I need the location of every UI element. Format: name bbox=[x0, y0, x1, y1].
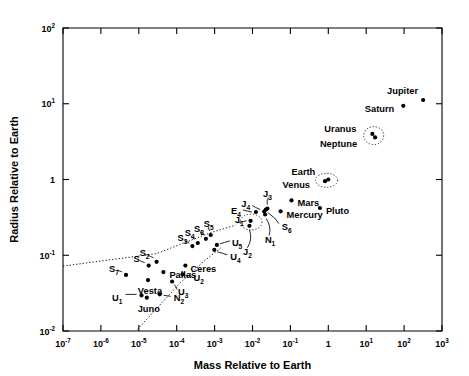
point-marker[interactable] bbox=[249, 219, 253, 223]
x-tick-label: 10-5 bbox=[131, 337, 147, 349]
point-marker[interactable] bbox=[254, 210, 258, 214]
y-tick-label: 10-1 bbox=[39, 249, 55, 261]
point-marker[interactable] bbox=[318, 206, 322, 210]
point-marker[interactable] bbox=[370, 132, 374, 136]
data-point-u5[interactable]: U5 bbox=[215, 238, 243, 250]
boundary-lines bbox=[63, 225, 236, 329]
label-leader-line bbox=[247, 230, 250, 248]
point-marker[interactable] bbox=[124, 273, 128, 277]
point-marker[interactable] bbox=[263, 212, 267, 216]
point-marker[interactable] bbox=[145, 296, 149, 300]
point-marker[interactable] bbox=[373, 135, 377, 139]
data-point-saturn[interactable]: Saturn bbox=[365, 104, 406, 114]
data-point-mars[interactable]: Mars bbox=[289, 198, 319, 208]
point-marker[interactable] bbox=[139, 293, 143, 297]
point-label: J3 bbox=[263, 189, 272, 201]
y-tick-label: 101 bbox=[41, 97, 55, 109]
data-point-j4[interactable]: J4 bbox=[241, 199, 266, 214]
point-marker[interactable] bbox=[212, 248, 216, 252]
data-point-juno[interactable]: Juno bbox=[138, 296, 161, 314]
point-label: Jupiter bbox=[387, 86, 418, 96]
point-label: S2 bbox=[140, 248, 150, 260]
point-label: J4 bbox=[241, 199, 250, 211]
x-tick-label: 10-3 bbox=[207, 337, 223, 349]
point-label: Uranus bbox=[324, 124, 356, 134]
point-label: U5 bbox=[232, 238, 243, 250]
data-point-s5[interactable]: S5 bbox=[204, 219, 214, 237]
point-marker[interactable] bbox=[247, 224, 251, 228]
point-label: Venus bbox=[283, 180, 310, 190]
point-label: U4 bbox=[230, 252, 241, 264]
point-label: S bbox=[134, 254, 140, 264]
point-marker[interactable] bbox=[279, 209, 283, 213]
label-leader-line bbox=[140, 261, 145, 263]
point-label: Neptune bbox=[320, 139, 357, 149]
point-label: Mercury bbox=[287, 210, 324, 220]
x-tick-label: 101 bbox=[359, 337, 373, 349]
label-leader-line bbox=[174, 285, 177, 290]
data-point-uranus[interactable]: Uranus bbox=[324, 124, 374, 136]
data-point-u4[interactable]: U4 bbox=[212, 248, 241, 264]
point-marker[interactable] bbox=[161, 270, 165, 274]
point-marker[interactable] bbox=[421, 98, 425, 102]
point-label: U2 bbox=[194, 273, 205, 285]
plot-frame bbox=[63, 28, 442, 331]
uranus-neptune-ring bbox=[364, 127, 384, 145]
data-point-s7[interactable]: S7 bbox=[109, 264, 128, 277]
point-marker[interactable] bbox=[170, 279, 174, 283]
point-label: Mars bbox=[298, 198, 320, 208]
point-label: Pluto bbox=[326, 206, 350, 216]
point-label: S6 bbox=[282, 222, 292, 234]
x-tick-label: 10-6 bbox=[93, 337, 109, 349]
point-label: N1 bbox=[265, 235, 276, 247]
y-tick-label: 102 bbox=[41, 22, 55, 34]
point-label: J2 bbox=[243, 247, 252, 259]
point-marker[interactable] bbox=[289, 198, 293, 202]
x-tick-label: 1 bbox=[326, 339, 331, 349]
point-label: Earth bbox=[292, 167, 316, 177]
y-tick-label: 10-2 bbox=[39, 325, 55, 337]
point-marker[interactable] bbox=[204, 237, 208, 241]
x-tick-label: 103 bbox=[435, 337, 449, 349]
mass-radius-scatter-plot: 10-710-610-510-410-310-210-11101102103Ma… bbox=[0, 0, 469, 376]
point-label: Saturn bbox=[365, 104, 395, 114]
data-point-n2[interactable]: N2 bbox=[158, 292, 185, 305]
x-axis-title: Mass Relative to Earth bbox=[194, 359, 312, 371]
point-marker[interactable] bbox=[146, 278, 150, 282]
x-tick-label: 10-2 bbox=[245, 337, 261, 349]
label-leader-line bbox=[164, 295, 171, 296]
upper-dotted-boundary bbox=[63, 225, 236, 266]
y-axis-title: Radius Relative to Earth bbox=[8, 116, 20, 243]
point-marker[interactable] bbox=[264, 208, 268, 212]
point-label: U1 bbox=[112, 293, 123, 305]
data-point-pallas[interactable]: Pallas bbox=[161, 270, 196, 280]
y-axis: 102101110-110-2Radius Relative to Earth bbox=[8, 22, 442, 337]
x-tick-label: 102 bbox=[397, 337, 411, 349]
x-axis: 10-710-610-510-410-310-210-11101102103Ma… bbox=[55, 28, 449, 371]
data-point-j2[interactable]: J2 bbox=[243, 224, 252, 259]
label-leader-line bbox=[220, 241, 230, 244]
point-marker[interactable] bbox=[158, 292, 162, 296]
point-marker[interactable] bbox=[183, 264, 187, 268]
point-marker[interactable] bbox=[147, 264, 151, 268]
data-point-jupiter[interactable]: Jupiter bbox=[387, 86, 425, 102]
label-leader-line bbox=[266, 219, 270, 236]
point-label: S8 bbox=[194, 224, 204, 236]
point-marker[interactable] bbox=[196, 241, 200, 245]
data-points: JupiterSaturnUranusNeptuneEarthVenusMars… bbox=[109, 86, 425, 314]
data-point-mercury[interactable]: Mercury bbox=[279, 209, 324, 220]
point-label: Juno bbox=[138, 304, 161, 314]
data-point-j3[interactable]: J3 bbox=[263, 189, 272, 211]
point-marker[interactable] bbox=[209, 233, 213, 237]
point-marker[interactable] bbox=[190, 244, 194, 248]
point-marker[interactable] bbox=[401, 104, 405, 108]
x-tick-label: 10-7 bbox=[55, 337, 71, 349]
label-leader-line bbox=[268, 213, 279, 224]
point-marker[interactable] bbox=[323, 179, 327, 183]
point-marker[interactable] bbox=[215, 243, 219, 247]
data-point-venus[interactable]: Venus bbox=[283, 179, 327, 190]
point-marker[interactable] bbox=[181, 272, 185, 276]
point-marker[interactable] bbox=[155, 260, 159, 264]
point-label: S7 bbox=[109, 264, 119, 276]
data-point-neptune[interactable]: Neptune bbox=[320, 135, 377, 149]
